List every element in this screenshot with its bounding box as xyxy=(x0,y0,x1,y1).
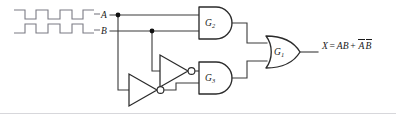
output-expression: X=AB+AB xyxy=(322,40,372,51)
output-plus: + xyxy=(349,40,358,51)
junction-dot-b xyxy=(150,29,155,34)
wire-g3-to-g1 xyxy=(232,61,267,78)
signal-label-b: B xyxy=(101,26,107,36)
output-term2-b-bar: B xyxy=(366,39,372,51)
gate-g2: G2 xyxy=(199,7,232,39)
output-equals: = xyxy=(328,40,337,51)
gate-g1: G1 xyxy=(266,36,300,68)
wire-b-branch-down xyxy=(152,31,160,71)
output-term2-a-bar: A xyxy=(358,39,364,51)
waveform-a xyxy=(14,10,94,19)
inverter-b xyxy=(160,55,200,87)
junction-dot-a xyxy=(116,13,121,18)
gate-g3: G3 xyxy=(199,62,232,94)
wire-a-branch-down xyxy=(118,15,129,90)
circuit-canvas: A B xyxy=(0,0,396,123)
inverter-a-bubble xyxy=(157,87,164,94)
circuit-diagram-figure: A B xyxy=(0,0,396,123)
signal-label-a: A xyxy=(100,10,107,20)
inverter-b-bubble xyxy=(188,68,195,75)
wire-g2-to-g1 xyxy=(232,23,267,43)
waveform-b xyxy=(14,24,94,33)
output-term1: AB xyxy=(337,40,349,51)
